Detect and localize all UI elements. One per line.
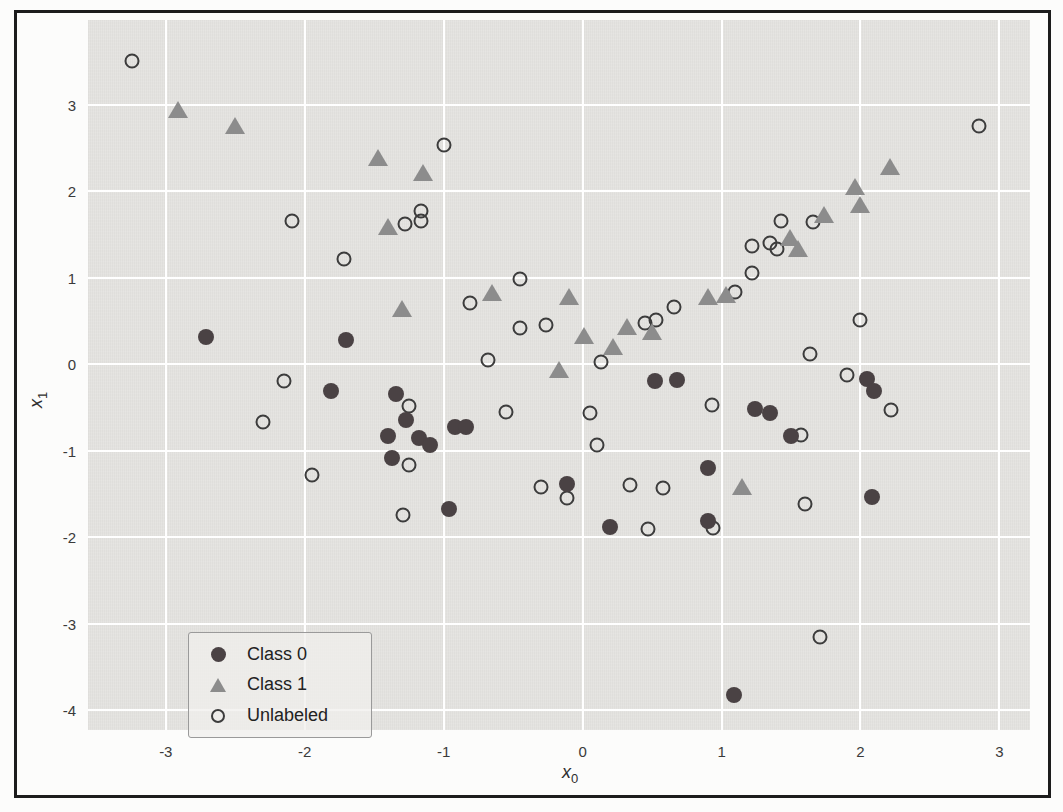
data-point-class0 (866, 383, 882, 399)
data-point-unlabeled (853, 313, 868, 328)
data-point-unlabeled (304, 467, 319, 482)
data-point-unlabeled (533, 479, 548, 494)
legend-item-class1: Class 1 (189, 671, 371, 699)
data-point-unlabeled (803, 346, 818, 361)
data-point-unlabeled (285, 214, 300, 229)
data-point-unlabeled (539, 318, 554, 333)
y-tick-label: 1 (32, 270, 76, 285)
data-point-unlabeled (839, 368, 854, 383)
data-point-class1 (392, 300, 412, 317)
data-point-class0 (323, 383, 339, 399)
legend-label: Unlabeled (247, 705, 328, 726)
gridline-horizontal (88, 450, 1030, 452)
y-axis-label: x1 (26, 392, 50, 408)
data-point-unlabeled (745, 265, 760, 280)
data-point-class1 (698, 288, 718, 305)
data-point-unlabeled (401, 398, 416, 413)
data-point-class1 (378, 218, 398, 235)
data-point-unlabeled (436, 138, 451, 153)
data-point-unlabeled (582, 406, 597, 421)
data-point-class0 (380, 428, 396, 444)
data-point-unlabeled (589, 437, 604, 452)
data-point-class1 (732, 478, 752, 495)
data-point-unlabeled (463, 295, 478, 310)
data-point-class1 (716, 286, 736, 303)
data-point-unlabeled (397, 217, 412, 232)
legend-item-class0: Class 0 (189, 640, 371, 668)
data-point-unlabeled (560, 491, 575, 506)
data-point-class0 (762, 405, 778, 421)
unlabeled-marker-icon (189, 709, 247, 723)
data-point-class1 (603, 338, 623, 355)
data-point-unlabeled (401, 457, 416, 472)
class0-marker-icon (189, 647, 247, 662)
data-point-class1 (168, 101, 188, 118)
data-point-class0 (700, 513, 716, 529)
y-tick-label: 3 (32, 97, 76, 112)
y-tick-label: 2 (32, 184, 76, 199)
y-tick-label: 0 (32, 357, 76, 372)
data-point-class0 (441, 501, 457, 517)
data-point-class1 (642, 323, 662, 340)
data-point-class0 (783, 428, 799, 444)
data-point-unlabeled (396, 507, 411, 522)
data-point-unlabeled (971, 119, 986, 134)
data-point-class1 (845, 178, 865, 195)
y-tick-label: -2 (32, 530, 76, 545)
gridline-horizontal (88, 190, 1030, 192)
class1-marker-icon (189, 678, 247, 692)
data-point-class1 (559, 288, 579, 305)
data-point-class0 (700, 460, 716, 476)
data-point-unlabeled (256, 415, 271, 430)
plot-area: Class 0 Class 1 Unlabeled (88, 20, 1030, 730)
data-point-class0 (388, 386, 404, 402)
data-point-class1 (368, 149, 388, 166)
data-point-unlabeled (774, 214, 789, 229)
data-point-unlabeled (797, 497, 812, 512)
data-point-class0 (458, 419, 474, 435)
data-point-class0 (647, 373, 663, 389)
data-point-unlabeled (481, 352, 496, 367)
data-point-unlabeled (513, 320, 528, 335)
data-point-class1 (617, 318, 637, 335)
data-point-class1 (788, 240, 808, 257)
data-point-class0 (726, 687, 742, 703)
x-tick-label: 2 (856, 744, 864, 759)
legend-item-unlabeled: Unlabeled (189, 702, 371, 730)
data-point-unlabeled (276, 373, 291, 388)
scanned-figure-page: Class 0 Class 1 Unlabeled -3-2-10123 321… (0, 0, 1063, 812)
data-point-unlabeled (667, 300, 682, 315)
x-axis-label: x0 (562, 762, 578, 786)
data-point-class0 (559, 476, 575, 492)
legend-label: Class 1 (247, 674, 307, 695)
data-point-unlabeled (704, 397, 719, 412)
data-point-class1 (413, 164, 433, 181)
x-tick-label: -1 (437, 744, 450, 759)
data-point-class0 (422, 437, 438, 453)
data-point-unlabeled (125, 53, 140, 68)
y-tick-label: -4 (32, 703, 76, 718)
x-tick-label: 1 (717, 744, 725, 759)
data-point-class1 (482, 284, 502, 301)
data-point-class1 (549, 361, 569, 378)
data-point-unlabeled (745, 238, 760, 253)
data-point-unlabeled (414, 214, 429, 229)
data-point-class1 (880, 158, 900, 175)
data-point-unlabeled (336, 251, 351, 266)
data-point-class0 (864, 489, 880, 505)
data-point-class1 (574, 327, 594, 344)
data-point-class0 (198, 329, 214, 345)
data-point-unlabeled (813, 630, 828, 645)
gridline-horizontal (88, 623, 1030, 625)
data-point-unlabeled (499, 404, 514, 419)
x-tick-label: -3 (159, 744, 172, 759)
y-tick-label: -3 (32, 616, 76, 631)
legend-label: Class 0 (247, 644, 307, 665)
gridline-horizontal (88, 277, 1030, 279)
data-point-class0 (384, 450, 400, 466)
data-point-class0 (669, 372, 685, 388)
data-point-class0 (398, 412, 414, 428)
y-tick-label: -1 (32, 443, 76, 458)
data-point-class1 (850, 196, 870, 213)
data-point-class0 (747, 401, 763, 417)
